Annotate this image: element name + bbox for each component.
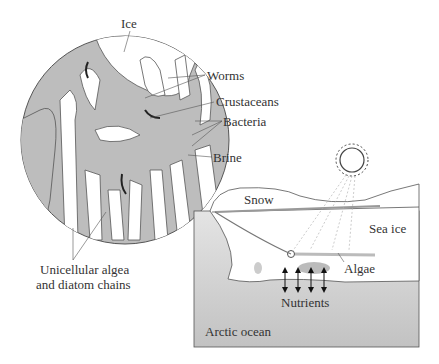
label-snow: Snow: [244, 193, 274, 206]
label-brine: Brine: [213, 151, 242, 164]
diagram-canvas: [0, 0, 439, 364]
label-algae-line2: and diatom chains: [36, 278, 131, 291]
sea-ice-cross-section: [194, 184, 419, 347]
label-crustaceans: Crustaceans: [216, 95, 279, 108]
label-nutrients: Nutrients: [281, 296, 329, 309]
label-worms: Worms: [207, 69, 244, 82]
label-arctic-ocean: Arctic ocean: [205, 325, 271, 338]
label-ice: Ice: [121, 17, 137, 30]
label-bacteria: Bacteria: [223, 115, 266, 128]
label-algae-line1: Unicellular algea: [40, 263, 129, 276]
label-sea-ice: Sea ice: [369, 222, 406, 235]
label-algae: Algae: [344, 262, 375, 275]
